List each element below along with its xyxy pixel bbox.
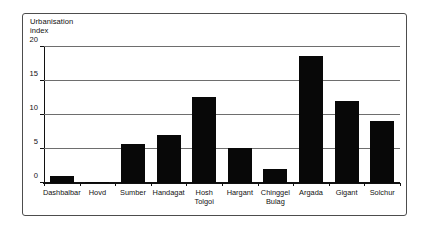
x-axis-tick xyxy=(186,183,187,186)
bar xyxy=(228,148,252,183)
bar xyxy=(85,182,109,183)
bar xyxy=(299,56,323,183)
x-axis-tick xyxy=(258,183,259,186)
x-axis-label: Dashbalbar xyxy=(43,188,81,197)
plot-wrapper: 05101520 DashbalbarHovdSumberHandagatHos… xyxy=(22,13,407,216)
x-axis-label: Hovd xyxy=(89,188,106,197)
x-axis-label: Gigant xyxy=(336,188,358,197)
bar xyxy=(370,121,394,183)
y-axis-tick-label: 10 xyxy=(30,102,38,111)
y-axis-tick-label: 15 xyxy=(30,68,38,77)
x-axis-tick xyxy=(151,183,152,186)
x-axis-label: Chinggel Bulag xyxy=(261,188,290,206)
x-axis-label: Hosh Tolgoi xyxy=(195,188,214,206)
bar-series xyxy=(44,47,400,183)
plot-area: 05101520 DashbalbarHovdSumberHandagatHos… xyxy=(44,47,400,183)
bar xyxy=(50,176,74,183)
x-axis-tick xyxy=(293,183,294,186)
y-axis-tick-label: 20 xyxy=(30,34,38,43)
x-axis-tick xyxy=(329,183,330,186)
x-axis-label: Handagat xyxy=(153,188,185,197)
y-axis-tick-label: 0 xyxy=(34,170,38,179)
x-axis-tick xyxy=(222,183,223,186)
x-axis-label: Argada xyxy=(299,188,323,197)
bar xyxy=(335,101,359,183)
x-axis-tick xyxy=(400,183,401,186)
bar xyxy=(192,97,216,183)
bar xyxy=(121,144,145,183)
x-axis-label: Hargant xyxy=(227,188,253,197)
bar xyxy=(263,169,287,183)
x-axis-tick xyxy=(364,183,365,186)
bar xyxy=(157,135,181,183)
x-axis-label: Sumber xyxy=(120,188,146,197)
x-axis-label: Solchur xyxy=(370,188,395,197)
chart-figure: Urbanisation index 05101520 DashbalbarHo… xyxy=(0,0,428,230)
x-axis-tick xyxy=(115,183,116,186)
y-axis-tick-label: 5 xyxy=(34,136,38,145)
x-axis-tick xyxy=(44,183,45,186)
x-axis-tick xyxy=(80,183,81,186)
